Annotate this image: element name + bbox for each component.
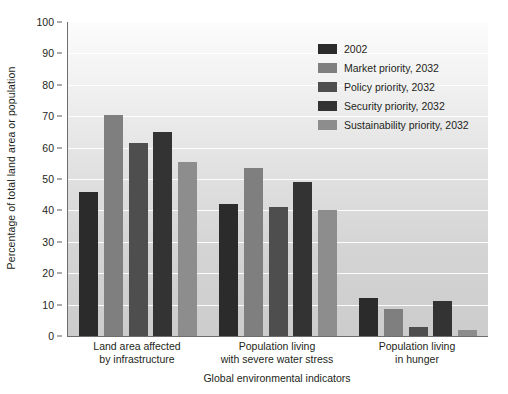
legend-swatch-1 (318, 63, 337, 73)
bar-g1-s4 (318, 210, 337, 336)
y-tick-mark-40 (57, 210, 62, 211)
legend-swatch-2 (318, 82, 337, 92)
y-tick-label-0: 0 (48, 330, 54, 342)
y-tick-label-10: 10 (42, 299, 54, 311)
y-tick-label-80: 80 (42, 79, 54, 91)
bar-g1-s3 (293, 182, 312, 336)
y-tick-mark-90 (57, 53, 62, 54)
legend-swatch-0 (318, 44, 337, 54)
category-label-1: Population livingwith severe water stres… (221, 340, 334, 366)
y-tick-label-60: 60 (42, 142, 54, 154)
bar-g1-s0 (219, 204, 238, 336)
y-tick-mark-60 (57, 147, 62, 148)
legend-item-2[interactable]: Policy priority, 2032 (318, 78, 493, 95)
legend-label-3: Security priority, 2032 (344, 100, 445, 112)
category-label-line: with severe water stress (221, 353, 334, 366)
y-tick-label-100: 100 (36, 16, 54, 28)
y-tick-mark-70 (57, 116, 62, 117)
y-tick-label-90: 90 (42, 47, 54, 59)
legend-label-0: 2002 (344, 43, 367, 55)
category-label-2: Population livingin hunger (379, 340, 455, 366)
y-tick-label-20: 20 (42, 267, 54, 279)
category-label-line: Population living (379, 340, 455, 353)
legend-item-1[interactable]: Market priority, 2032 (318, 59, 493, 76)
y-tick-label-70: 70 (42, 110, 54, 122)
legend-swatch-3 (318, 101, 337, 111)
legend-item-3[interactable]: Security priority, 2032 (318, 97, 493, 114)
legend-label-1: Market priority, 2032 (344, 62, 439, 74)
category-label-line: in hunger (379, 353, 455, 366)
y-tick-mark-10 (57, 304, 62, 305)
y-tick-label-40: 40 (42, 204, 54, 216)
y-tick-mark-100 (57, 22, 62, 23)
bar-g0-s1 (104, 115, 123, 336)
bar-g2-s2 (409, 327, 428, 336)
bar-g0-s3 (153, 132, 172, 336)
category-label-line: Land area affected (93, 340, 180, 353)
y-axis-title: Percentage of total land area or populat… (0, 0, 22, 336)
y-tick-mark-0 (57, 336, 62, 337)
category-label-0: Land area affectedby infrastructure (93, 340, 180, 366)
legend-label-2: Policy priority, 2032 (344, 81, 435, 93)
bar-g2-s0 (359, 298, 378, 336)
category-label-line: Population living (221, 340, 334, 353)
y-axis-tick-labels: 0102030405060708090100 (22, 22, 62, 336)
bar-g1-s2 (269, 207, 288, 336)
y-tick-mark-20 (57, 273, 62, 274)
bar-chart: Percentage of total land area or populat… (0, 0, 508, 394)
bar-g2-s4 (458, 330, 477, 336)
bar-g0-s0 (79, 192, 98, 336)
legend-item-0[interactable]: 2002 (318, 40, 493, 57)
bar-g2-s1 (384, 309, 403, 336)
x-axis-title: Global environmental indicators (67, 372, 487, 384)
y-tick-label-30: 30 (42, 236, 54, 248)
y-tick-label-50: 50 (42, 173, 54, 185)
legend-label-4: Sustainability priority, 2032 (344, 119, 469, 131)
bar-g2-s3 (433, 301, 452, 336)
x-axis-category-labels: Land area affectedby infrastructurePopul… (67, 340, 487, 372)
bar-g1-s1 (244, 168, 263, 336)
legend: 2002Market priority, 2032Policy priority… (318, 40, 493, 135)
y-tick-mark-50 (57, 179, 62, 180)
legend-swatch-4 (318, 120, 337, 130)
y-tick-mark-80 (57, 84, 62, 85)
bar-g0-s4 (178, 162, 197, 336)
category-label-line: by infrastructure (93, 353, 180, 366)
bar-g0-s2 (129, 143, 148, 336)
y-tick-mark-30 (57, 241, 62, 242)
legend-item-4[interactable]: Sustainability priority, 2032 (318, 116, 493, 133)
